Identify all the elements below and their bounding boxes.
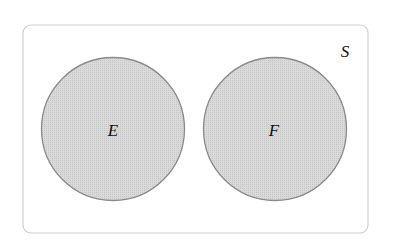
- sample-space-label: S: [341, 42, 350, 61]
- venn-diagram: S E F: [0, 0, 393, 246]
- event-f-label: F: [268, 121, 280, 140]
- event-e-label: E: [107, 121, 119, 140]
